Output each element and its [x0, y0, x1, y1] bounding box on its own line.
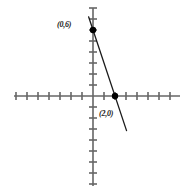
graph-canvas — [0, 0, 188, 190]
coordinate-graph-figure: (0,6) (2,0) — [0, 0, 188, 190]
marked-point — [112, 93, 118, 99]
axes-group — [14, 8, 180, 186]
point-label-x-intercept: (2,0) — [99, 109, 113, 118]
point-label-y-intercept: (0,6) — [57, 20, 71, 29]
marked-point — [90, 27, 96, 33]
